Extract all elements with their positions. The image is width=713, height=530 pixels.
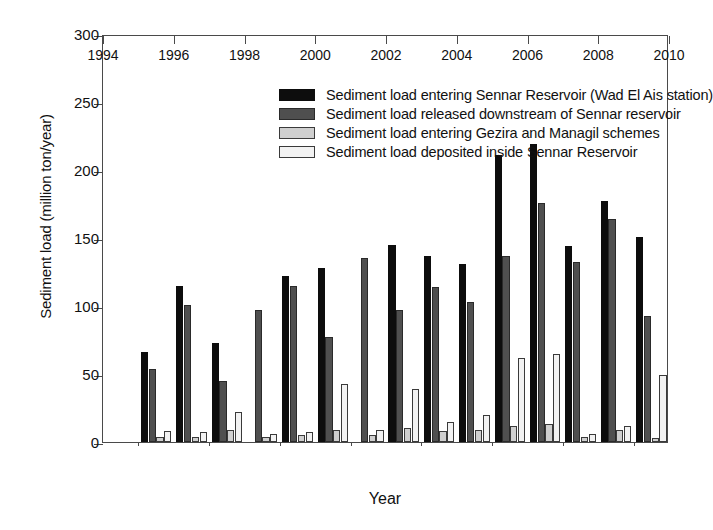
bar-2002-series3	[412, 389, 419, 442]
bar-2005-series1	[502, 256, 509, 442]
x-tick-label: 1998	[215, 47, 275, 63]
bar-1996-series0	[176, 286, 183, 442]
legend-item-label: Sediment load released downstream of Sen…	[326, 106, 681, 122]
bar-2004-series0	[459, 264, 466, 442]
bar-1996-series1	[184, 305, 191, 442]
bar-1997-series2	[227, 430, 234, 442]
x-minor-tick-2003	[421, 442, 422, 446]
x-axis-title: Year	[102, 490, 668, 508]
bar-2009-series1	[644, 316, 651, 442]
x-tick-mark	[598, 36, 599, 44]
bar-2009-series0	[636, 237, 643, 442]
y-tick-label: 200	[74, 162, 99, 179]
x-tick-mark	[245, 36, 246, 44]
x-minor-tick-2007	[563, 442, 564, 446]
y-tick-label: 150	[74, 230, 99, 247]
bar-1999-series1	[290, 286, 297, 442]
legend-item-label: Sediment load entering Gezira and Managi…	[326, 125, 660, 141]
legend-item-2: Sediment load entering Gezira and Managi…	[279, 124, 699, 142]
x-tick-mark	[669, 36, 670, 44]
bar-2007-series1	[573, 262, 580, 442]
y-tick-label: 300	[74, 26, 99, 43]
bar-2001-series3	[376, 430, 383, 442]
bar-1996-series3	[200, 432, 207, 442]
chart-legend: Sediment load entering Sennar Reservoir …	[279, 86, 699, 162]
bar-2009-series3	[659, 375, 666, 442]
x-tick-label: 1996	[144, 47, 204, 63]
bar-2004-series2	[475, 430, 482, 442]
bar-2003-series0	[424, 256, 431, 442]
bar-1995-series0	[141, 352, 148, 442]
x-minor-tick-2009	[634, 442, 635, 446]
bar-2001-series2	[369, 435, 376, 442]
legend-item-1: Sediment load released downstream of Sen…	[279, 105, 699, 123]
bar-2000-series1	[325, 337, 332, 442]
x-tick-label: 2010	[639, 47, 699, 63]
x-tick-mark	[457, 36, 458, 44]
bar-2009-series2	[652, 438, 659, 442]
legend-item-3: Sediment load deposited inside Sennar Re…	[279, 143, 699, 161]
bar-1995-series3	[164, 431, 171, 442]
bar-1998-series3	[270, 434, 277, 442]
x-tick-label: 1994	[73, 47, 133, 63]
bar-1999-series3	[306, 432, 313, 442]
x-minor-tick-1997	[209, 442, 210, 446]
bar-2004-series3	[483, 415, 490, 442]
bar-2006-series2	[545, 424, 552, 442]
bar-2001-series1	[361, 258, 368, 442]
y-tick-label: 0	[91, 434, 99, 451]
bar-2005-series3	[518, 358, 525, 442]
bar-2003-series2	[439, 431, 446, 442]
bar-2000-series0	[318, 268, 325, 442]
bar-2008-series2	[616, 430, 623, 442]
bar-1995-series2	[156, 437, 163, 442]
bar-2003-series3	[447, 422, 454, 442]
x-tick-mark	[528, 36, 529, 44]
bar-2008-series1	[608, 219, 615, 442]
y-tick-label: 100	[74, 298, 99, 315]
x-tick-mark	[103, 36, 104, 44]
bar-1999-series0	[282, 276, 289, 442]
bar-2002-series2	[404, 428, 411, 442]
bar-1999-series2	[298, 435, 305, 442]
bar-2005-series0	[495, 155, 502, 442]
bar-2000-series2	[333, 430, 340, 442]
y-tick-label: 50	[82, 366, 99, 383]
bar-2008-series0	[601, 201, 608, 442]
x-tick-label: 2002	[356, 47, 416, 63]
bar-1998-series2	[262, 437, 269, 442]
x-minor-tick-2001	[351, 442, 352, 446]
y-axis-title: Sediment load (million ton/year)	[37, 67, 54, 367]
bar-1997-series0	[212, 343, 219, 442]
x-minor-tick-2005	[492, 442, 493, 446]
bar-2006-series1	[538, 203, 545, 442]
x-minor-tick-1995	[138, 442, 139, 446]
x-tick-mark	[386, 36, 387, 44]
legend-swatch-icon	[279, 146, 315, 158]
legend-item-label: Sediment load deposited inside Sennar Re…	[326, 144, 637, 160]
bar-2006-series0	[530, 144, 537, 442]
legend-swatch-icon	[279, 108, 315, 120]
bar-2008-series3	[624, 426, 631, 442]
bar-2003-series1	[432, 287, 439, 442]
bar-2005-series2	[510, 426, 517, 442]
plot-area: 050100150200250300 199419961998200020022…	[102, 35, 668, 443]
bar-2000-series3	[341, 384, 348, 442]
y-tick-label: 250	[74, 94, 99, 111]
legend-item-label: Sediment load entering Sennar Reservoir …	[326, 87, 713, 103]
bar-1996-series2	[192, 437, 199, 442]
bar-1997-series3	[235, 412, 242, 442]
bar-2002-series1	[396, 310, 403, 442]
bar-2006-series3	[553, 354, 560, 442]
x-tick-label: 2004	[427, 47, 487, 63]
bar-2007-series0	[565, 246, 572, 442]
bar-1997-series1	[219, 381, 226, 442]
bar-2004-series1	[467, 302, 474, 442]
x-tick-mark	[315, 36, 316, 44]
bar-2002-series0	[388, 245, 395, 442]
x-tick-label: 2000	[285, 47, 345, 63]
legend-swatch-icon	[279, 89, 315, 101]
legend-item-0: Sediment load entering Sennar Reservoir …	[279, 86, 699, 104]
x-minor-tick-1999	[280, 442, 281, 446]
